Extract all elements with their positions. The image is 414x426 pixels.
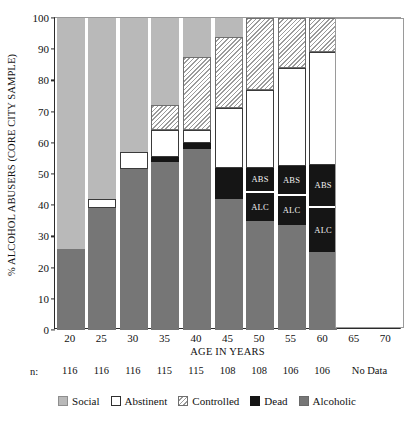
- sample-size-value-age-50: 108: [251, 365, 267, 376]
- x-axis-title: AGE IN YEARS: [54, 346, 401, 357]
- segment-dead-age-60: ALC: [309, 208, 337, 252]
- legend-label-abstinent: Abstinent: [125, 395, 168, 407]
- no-data-text: No Data: [352, 365, 387, 376]
- bar-age-55[interactable]: ALCABS: [278, 18, 306, 328]
- segment-abstinent-age-25: [88, 199, 116, 208]
- bar-age-30[interactable]: [120, 18, 148, 328]
- segment-controlled-age-60: [309, 18, 337, 52]
- segment-dead-age-35: [151, 157, 179, 162]
- y-axis-tick-mark: [51, 173, 55, 174]
- segment-inline-label: ABS: [283, 176, 300, 185]
- segment-abstinent-age-40: [183, 130, 211, 142]
- y-axis-tick-mark: [51, 49, 55, 50]
- y-axis-tick-mark: [51, 111, 55, 112]
- y-axis-tick-mark: [51, 205, 55, 206]
- legend-label-social: Social: [72, 395, 100, 407]
- segment-social-age-25: [88, 18, 116, 199]
- legend-label-dead: Dead: [264, 395, 287, 407]
- segment-dead-age-45: [215, 168, 243, 199]
- legend-item-abstinent[interactable]: Abstinent: [111, 395, 168, 407]
- y-axis-tick-mark: [51, 80, 55, 81]
- legend-swatch-dead: [250, 396, 260, 406]
- segment-abstinent-age-60: [309, 52, 337, 164]
- segment-abstinent-age-30: [120, 152, 148, 169]
- legend-swatch-alcoholic: [299, 396, 309, 406]
- segment-inline-label: ALC: [314, 226, 332, 235]
- segment-alcoholic-age-50: [246, 221, 274, 330]
- y-axis-title: % ALCOHOL ABUSERS (CORE CITY SAMPLE): [0, 0, 22, 330]
- sample-size-value-age-30: 116: [125, 365, 140, 376]
- bars-container: ALCABSALCABSALCABS: [55, 18, 400, 328]
- bar-age-35[interactable]: [151, 18, 179, 328]
- segment-inline-label: ABS: [251, 175, 268, 184]
- segment-dead-age-40: [183, 143, 211, 149]
- bar-age-60[interactable]: ALCABS: [309, 18, 337, 328]
- segment-dead-age-50: ALC: [246, 193, 274, 221]
- segment-dead-age-50: ABS: [246, 168, 274, 191]
- bar-age-20[interactable]: [57, 18, 85, 328]
- legend-label-controlled: Controlled: [192, 395, 239, 407]
- x-axis-tick-label-40: 40: [190, 332, 201, 344]
- x-axis-tick-label-35: 35: [159, 332, 170, 344]
- segment-inline-label: ALC: [283, 206, 301, 215]
- legend-item-social[interactable]: Social: [58, 395, 100, 407]
- y-axis-tick-mark: [51, 267, 55, 268]
- segment-controlled-age-35: [151, 105, 179, 130]
- segment-alcoholic-age-20: [57, 249, 85, 330]
- segment-social-age-20: [57, 18, 85, 249]
- legend-swatch-abstinent: [111, 396, 121, 406]
- segment-social-age-30: [120, 18, 148, 152]
- segment-dead-age-60: ABS: [309, 165, 337, 206]
- x-axis-tick-label-45: 45: [222, 332, 233, 344]
- x-axis-tick-label-50: 50: [254, 332, 265, 344]
- bar-age-40[interactable]: [183, 18, 211, 328]
- x-axis-tick-label-25: 25: [96, 332, 107, 344]
- segment-controlled-age-45: [215, 37, 243, 109]
- sample-size-value-age-55: 106: [283, 365, 299, 376]
- bar-age-25[interactable]: [88, 18, 116, 328]
- x-axis-tick-label-65: 65: [348, 332, 359, 344]
- segment-abstinent-age-55: [278, 68, 306, 166]
- y-axis-tick-mark: [51, 236, 55, 237]
- segment-abstinent-age-50: [246, 90, 274, 168]
- x-axis-tick-label-60: 60: [317, 332, 328, 344]
- segment-alcoholic-age-55: [278, 225, 306, 330]
- sample-size-value-age-45: 108: [220, 365, 236, 376]
- segment-inline-label: ABS: [315, 181, 332, 190]
- segment-alcoholic-age-30: [120, 169, 148, 330]
- x-axis-tick-label-70: 70: [380, 332, 391, 344]
- segment-controlled-age-50: [246, 18, 274, 90]
- sample-size-value-age-25: 116: [94, 365, 109, 376]
- plot-area: ALCABSALCABSALCABS 010203040506070809010…: [54, 17, 401, 329]
- sample-size-row: n: 116116116115115108108106106No Data: [0, 365, 414, 381]
- x-axis-tick-label-55: 55: [285, 332, 296, 344]
- segment-abstinent-age-35: [151, 130, 179, 157]
- stacked-bar-chart: % ALCOHOL ABUSERS (CORE CITY SAMPLE) ALC…: [0, 0, 414, 426]
- legend-label-alcoholic: Alcoholic: [313, 395, 356, 407]
- legend-item-alcoholic[interactable]: Alcoholic: [299, 395, 356, 407]
- y-axis-tick-mark: [51, 17, 55, 18]
- segment-abstinent-age-45: [215, 108, 243, 167]
- segment-social-age-45: [215, 18, 243, 37]
- sample-size-value-age-35: 115: [157, 365, 172, 376]
- sample-size-value-age-60: 106: [314, 365, 330, 376]
- segment-alcoholic-age-40: [183, 149, 211, 330]
- segment-controlled-age-40: [183, 57, 211, 130]
- segment-dead-age-55: ABS: [278, 166, 306, 193]
- y-axis-tick-mark: [51, 142, 55, 143]
- legend-item-dead[interactable]: Dead: [250, 395, 287, 407]
- sample-size-value-age-20: 116: [62, 365, 77, 376]
- legend-swatch-social: [58, 396, 68, 406]
- legend-item-controlled[interactable]: Controlled: [178, 395, 239, 407]
- bar-age-50[interactable]: ALCABS: [246, 18, 274, 328]
- y-axis-tick-mark: [51, 298, 55, 299]
- segment-alcoholic-age-35: [151, 162, 179, 330]
- segment-social-age-40: [183, 18, 211, 57]
- segment-alcoholic-age-60: [309, 252, 337, 330]
- segment-controlled-age-55: [278, 18, 306, 68]
- legend: SocialAbstinentControlledDeadAlcoholic: [0, 395, 414, 407]
- no-data-region: [335, 18, 404, 328]
- bar-age-45[interactable]: [215, 18, 243, 328]
- x-axis-tick-label-20: 20: [64, 332, 75, 344]
- sample-size-label: n:: [30, 366, 38, 377]
